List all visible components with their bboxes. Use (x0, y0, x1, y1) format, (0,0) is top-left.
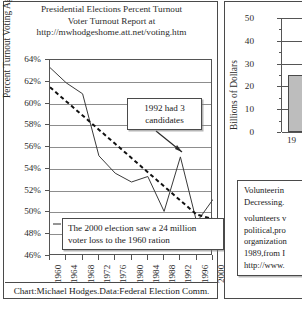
chart-title-line-3: http://mwhodgeshome.att.net/voting.htm (4, 27, 219, 39)
callout-2000: The 2000 election saw a 24 million voter… (62, 218, 224, 250)
chart-title-line-2: Voter Turnout Report at (4, 16, 219, 28)
textbox-lead-2: Decressing. (244, 197, 302, 209)
x-tick-label: 1976 (118, 265, 128, 283)
right-x-tick-label: 19 (287, 135, 296, 145)
textbox-body-line: http://www. (244, 260, 302, 272)
x-tick-label: 1964 (69, 265, 79, 283)
callout-2000-line-1: The 2000 election saw a 24 million (68, 222, 218, 234)
right-y-tick-label: 0 (224, 127, 254, 137)
footer-divider (5, 282, 218, 283)
voter-turnout-chart-panel: Presidential Elections Percent Turnout V… (3, 1, 218, 299)
right-plot-area (281, 18, 302, 132)
y-tick-label: 46% (1, 250, 41, 260)
x-tick-label: 1980 (135, 265, 145, 283)
y-tick-label: 52% (1, 185, 41, 195)
textbox-lead-1: Volunteerin (244, 185, 302, 197)
y-tick-label: 50% (1, 206, 41, 216)
right-y-tick-label: 40 (224, 36, 254, 46)
callout-1992-line-1: 1992 had 3 (130, 102, 199, 114)
right-y-tick-label: 50 (224, 13, 254, 23)
x-tick-label: 1972 (102, 265, 112, 283)
right-gridline (282, 18, 302, 19)
right-y-axis-label: Billions of Dollars (229, 60, 239, 130)
textbox-body-line: 1989,from I (244, 248, 302, 260)
x-tick-label: 1984 (151, 265, 161, 283)
y-tick-label: 64% (1, 54, 41, 64)
y-tick-label: 54% (1, 163, 41, 173)
callout-1992: 1992 had 3 candidates (127, 98, 202, 130)
right-y-tick-label: 30 (224, 59, 254, 69)
volunteering-textbox: Volunteerin Decressing. volunteers vpoli… (237, 180, 302, 276)
y-tick-label: 62% (1, 76, 41, 86)
textbox-body-line: political,pro (244, 225, 302, 237)
textbox-body: volunteers vpolitical,proorganization198… (244, 213, 302, 271)
turnout-line (50, 68, 213, 223)
y-tick-label: 56% (1, 141, 41, 151)
chart-title: Presidential Elections Percent Turnout V… (4, 4, 219, 39)
right-y-tick-mark (277, 132, 281, 133)
textbox-body-line: organization (244, 236, 302, 248)
right-y-tick-label: 20 (224, 81, 254, 91)
callout-2000-line-2: voter loss to the 1960 ration (68, 234, 218, 246)
chart-title-line-1: Presidential Elections Percent Turnout (4, 4, 219, 16)
x-tick-label: 1960 (53, 265, 63, 283)
callout-1992-line-2: candidates (130, 114, 199, 126)
volunteering-panel: Billions of Dollars 01020304050 19 Volun… (224, 1, 302, 299)
bar (288, 75, 302, 132)
right-gridline (282, 64, 302, 65)
x-tick-label: 1996 (200, 265, 210, 283)
x-tick-label: 1992 (183, 265, 193, 283)
right-y-tick-label: 10 (224, 104, 254, 114)
chart-source-footer: Chart:Michael Hodges.Data:Federal Electi… (4, 286, 219, 296)
textbox-body-line: volunteers v (244, 213, 302, 225)
y-tick-label: 60% (1, 98, 41, 108)
right-gridline (282, 132, 302, 133)
y-tick-label: 58% (1, 119, 41, 129)
x-tick-label: 1988 (167, 265, 177, 283)
screenshot-root: Presidential Elections Percent Turnout V… (0, 0, 302, 312)
x-tick-label: 1968 (86, 265, 96, 283)
y-tick-label: 48% (1, 228, 41, 238)
right-gridline (282, 41, 302, 42)
